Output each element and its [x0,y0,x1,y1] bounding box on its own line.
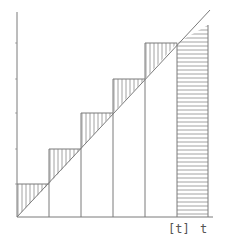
hatch-triangle-4 [113,79,145,113]
floor-label: [t] [168,222,190,236]
hatch-triangle-2 [49,149,81,184]
staircase-diagram: [t] t [0,0,225,242]
final-strip-hatch [177,25,208,217]
x-axis-label: t [200,222,207,236]
hatch-triangle-5 [145,43,177,79]
